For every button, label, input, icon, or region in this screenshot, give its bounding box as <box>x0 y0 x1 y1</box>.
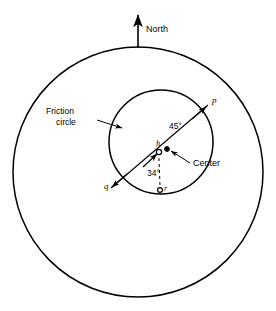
point-h-marker <box>156 149 161 154</box>
point-r-label: r <box>164 184 167 193</box>
point-q-label: q <box>104 181 109 191</box>
angle-45-label: 45° <box>169 122 182 132</box>
point-h-label: h <box>156 139 160 148</box>
angle-34-label: 34° <box>147 169 160 179</box>
center-marker <box>165 147 170 152</box>
friction-circle <box>109 90 213 194</box>
arrow-to-q <box>112 174 127 187</box>
center-leader <box>171 151 190 163</box>
friction-circle-label-line1: Friction <box>46 107 74 117</box>
outer-circle <box>13 47 263 297</box>
north-label: North <box>146 24 168 34</box>
point-p-label: p <box>212 95 217 105</box>
friction-circle-leader <box>97 120 122 128</box>
diagram-canvas <box>0 0 276 311</box>
friction-circle-figure: North Friction circle Center 45° 34° p q… <box>0 0 276 311</box>
arrow-to-h <box>143 154 157 167</box>
center-label: Center <box>193 158 220 168</box>
point-r-marker <box>158 188 163 193</box>
friction-circle-label-line2: circle <box>56 118 76 128</box>
